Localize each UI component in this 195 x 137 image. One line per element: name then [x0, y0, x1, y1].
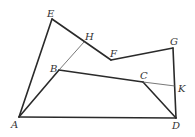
- segment-AE: [19, 19, 52, 117]
- label-A: A: [10, 119, 18, 130]
- label-E: E: [46, 8, 55, 19]
- segment-FG: [111, 48, 173, 60]
- label-D: D: [171, 120, 180, 131]
- label-H: H: [84, 31, 94, 42]
- segment-BC: [59, 70, 143, 82]
- label-G: G: [170, 36, 178, 47]
- label-C: C: [140, 70, 148, 81]
- thick-segments: [19, 19, 176, 118]
- geometry-diagram: A B C D E F G H K: [0, 0, 195, 137]
- segment-BH: [59, 42, 84, 70]
- label-B: B: [49, 63, 57, 74]
- label-F: F: [109, 48, 118, 59]
- label-K: K: [177, 83, 186, 94]
- segment-GD: [173, 48, 176, 118]
- point-labels: A B C D E F G H K: [10, 8, 186, 131]
- segment-EF: [52, 19, 111, 60]
- thin-segments: [59, 42, 175, 86]
- segment-CD: [143, 82, 176, 118]
- segment-AB: [19, 70, 59, 117]
- segment-CK: [143, 82, 175, 86]
- segment-AD: [19, 117, 176, 118]
